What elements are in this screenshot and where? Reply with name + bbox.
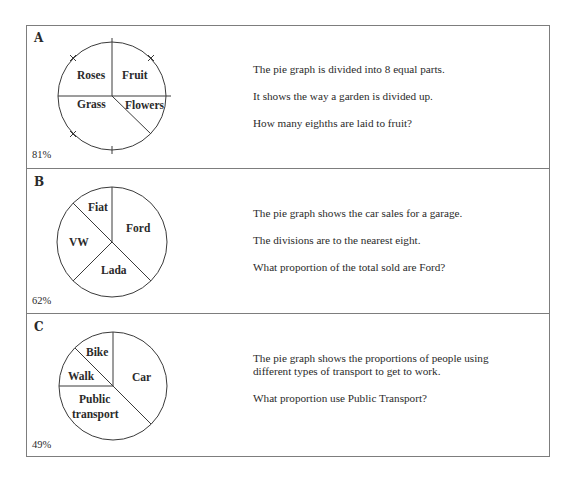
label-transport: transport (72, 408, 119, 421)
pie-chart-c: Bike Walk Car Public transport (0, 0, 575, 480)
label-car: Car (132, 371, 151, 383)
label-public: Public (79, 393, 110, 405)
label-walk: Walk (68, 370, 95, 382)
label-bike: Bike (86, 346, 108, 358)
